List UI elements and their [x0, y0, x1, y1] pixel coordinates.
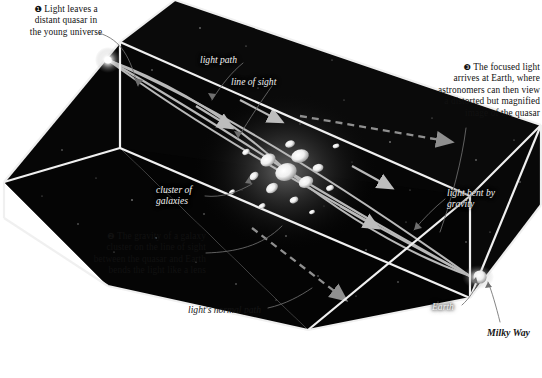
label-cluster-of-galaxies: cluster of galaxies: [156, 185, 192, 206]
label-lights-normal-path: light's normal path: [188, 304, 261, 315]
caption-3-line-5: image of the quasar: [465, 108, 540, 118]
quasar-source: [95, 47, 121, 73]
label-cluster-line-2: galaxies: [156, 195, 188, 206]
caption-2-line-3: between the quasar and Earth: [94, 254, 206, 264]
caption-1-line-1: Light leaves a: [44, 4, 98, 14]
label-bent-line-1: light bent by: [447, 187, 495, 198]
label-earth: Earth: [432, 301, 454, 312]
caption-3-line-4: a distorted but magnified: [444, 96, 540, 106]
caption-2-line-4: bends the light like a lens: [109, 265, 206, 275]
label-cluster-line-1: cluster of: [156, 184, 192, 195]
caption-3-line-3: astronomers can then view: [438, 85, 540, 95]
caption-3-line-2: arrives at Earth, where: [454, 73, 540, 83]
caption-3-line-1: The focused light: [473, 62, 540, 72]
caption-3: ❸ The focused light arrives at Earth, wh…: [392, 62, 540, 119]
label-line-of-sight: line of sight: [231, 76, 276, 87]
caption-3-marker: ❸: [463, 62, 471, 72]
caption-1-line-3: the young universe: [30, 27, 103, 37]
caption-1: ❶ Light leaves a distant quasar in the y…: [2, 4, 130, 38]
diagram-canvas: ❶ Light leaves a distant quasar in the y…: [0, 0, 542, 378]
caption-2-marker: ❷: [107, 231, 115, 241]
caption-2-line-2: cluster on the line of sight: [106, 242, 206, 252]
label-light-bent-by-gravity: light bent by gravity: [447, 188, 495, 209]
caption-2-line-1: The gravity of a galaxy: [117, 231, 206, 241]
caption-2: ❷ The gravity of a galaxy cluster on the…: [24, 231, 206, 277]
caption-1-line-2: distant quasar in: [35, 15, 98, 25]
leader-milky-way: [488, 282, 500, 322]
label-bent-line-2: gravity: [447, 198, 474, 209]
caption-1-marker: ❶: [34, 4, 42, 14]
label-light-path: light path: [200, 54, 237, 65]
label-milky-way: Milky Way: [487, 327, 530, 338]
